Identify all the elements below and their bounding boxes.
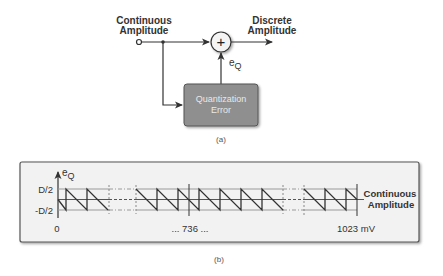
- x-axis-label-line2: Amplitude: [368, 199, 414, 210]
- x-tick-736: ... 736 ...: [172, 223, 209, 234]
- x-axis-label-line1: Continuous: [364, 188, 417, 199]
- y-tick-negative: -D/2: [35, 205, 53, 216]
- input-terminal-icon: [137, 40, 142, 45]
- x-tick-0: 0: [54, 223, 59, 234]
- block-label-line1: Quantization: [196, 94, 247, 104]
- branch-arrow: [163, 42, 182, 105]
- caption-a: (a): [216, 135, 226, 144]
- figure-b-error-plot: eQ D/2 -D/2: [20, 162, 419, 264]
- caption-b: (b): [214, 255, 224, 264]
- input-label-line2: Amplitude: [120, 25, 169, 36]
- block-label-line2: Error: [211, 105, 231, 115]
- plus-icon: +: [217, 33, 226, 50]
- y-tick-positive: D/2: [38, 184, 53, 195]
- x-tick-1023: 1023 mV: [337, 223, 376, 234]
- figure-a-block-diagram: Continuous Amplitude Discrete Amplitude …: [116, 15, 297, 144]
- error-signal-label: eQ: [229, 57, 242, 71]
- output-label-line2: Amplitude: [248, 25, 297, 36]
- quantization-diagram: Continuous Amplitude Discrete Amplitude …: [0, 0, 443, 276]
